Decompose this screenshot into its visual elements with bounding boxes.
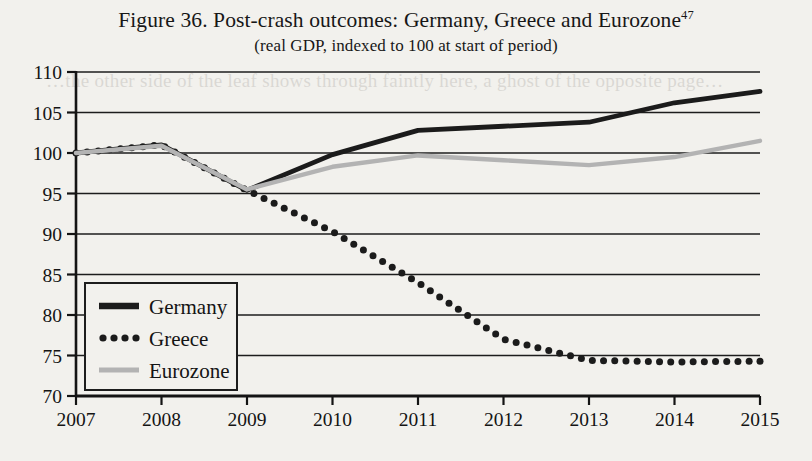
series-dot (311, 219, 318, 226)
series-dot (567, 352, 574, 359)
series-dot (250, 190, 257, 197)
series-dot (464, 312, 471, 319)
series-dot (455, 306, 462, 313)
y-axis-tick-label: 100 (33, 143, 62, 164)
series-dot (589, 357, 596, 364)
series-dot (524, 342, 531, 349)
y-axis-tick-label: 80 (43, 305, 63, 326)
figure-container: Figure 36. Post-crash outcomes: Germany,… (0, 0, 812, 461)
y-axis-tick-label: 70 (43, 386, 63, 407)
series-dot (261, 195, 268, 202)
x-axis-tick-label: 2015 (741, 409, 780, 430)
series-dot (321, 224, 328, 231)
y-axis-tick-label: 110 (33, 62, 62, 83)
series-dot (360, 247, 367, 254)
series-line (76, 141, 760, 190)
series-dot (513, 339, 520, 346)
series-dot (474, 318, 481, 325)
legend-label-eurozone: Eurozone (149, 359, 229, 383)
series-dot (656, 358, 663, 365)
series-dot (398, 269, 405, 276)
series-dot (690, 358, 697, 365)
x-axis-tick-label: 2012 (484, 409, 523, 430)
y-axis-tick-labels-group: 707580859095100105110 (33, 62, 62, 407)
x-axis-tick-label: 2010 (313, 409, 352, 430)
y-axis-tick-label: 105 (33, 103, 62, 124)
series-eurozone (76, 141, 760, 190)
series-dot (746, 358, 753, 365)
series-dot (622, 358, 629, 365)
series-dot (291, 210, 298, 217)
chart-plot-area: 707580859095100105110 200720082009201020… (0, 0, 812, 461)
x-axis-tick-label: 2009 (228, 409, 267, 430)
legend-swatch-greece (110, 334, 117, 341)
legend-swatch-greece (132, 334, 139, 341)
y-axis-tick-label: 95 (43, 184, 63, 205)
series-dot (534, 344, 541, 351)
series-dot (408, 275, 415, 282)
y-axis-tick-label: 90 (43, 224, 63, 245)
series-dot (734, 358, 741, 365)
legend-swatch-greece (121, 334, 128, 341)
x-axis-tick-label: 2011 (399, 409, 437, 430)
series-dot (427, 287, 434, 294)
series-dot (370, 252, 377, 259)
series-dot (502, 336, 509, 343)
series-dot (446, 300, 453, 307)
series-dot (483, 324, 490, 331)
series-dot (723, 358, 730, 365)
series-dot (701, 358, 708, 365)
series-dot (492, 331, 499, 338)
series-dot (678, 358, 685, 365)
series-dot (600, 357, 607, 364)
y-axis-tick-label: 75 (43, 346, 63, 367)
legend-swatch-greece (99, 334, 106, 341)
legend-label-greece: Greece (149, 327, 208, 351)
series-dot (667, 358, 674, 365)
series-dot (379, 258, 386, 265)
series-dot (350, 241, 357, 248)
series-dot (271, 200, 278, 207)
x-axis-tick-label: 2007 (57, 409, 96, 430)
series-dot (578, 355, 585, 362)
series-dot (611, 357, 618, 364)
chart-legend: GermanyGreeceEurozone (85, 283, 237, 390)
series-dot (331, 229, 338, 236)
series-dot (418, 281, 425, 288)
x-axis-tick-labels-group: 200720082009201020112012201320142015 (57, 409, 780, 430)
series-dot (436, 293, 443, 300)
y-axis-ticks-group (67, 72, 76, 396)
series-dot (301, 214, 308, 221)
series-dot (757, 358, 764, 365)
x-axis-tick-label: 2008 (142, 409, 181, 430)
series-germany (76, 91, 760, 190)
series-dot (712, 358, 719, 365)
series-dot (389, 264, 396, 271)
x-axis-tick-label: 2014 (655, 409, 694, 430)
legend-label-germany: Germany (149, 295, 228, 319)
series-dot (341, 235, 348, 242)
series-dot (281, 205, 288, 212)
series-dot (556, 350, 563, 357)
series-line (76, 91, 760, 190)
y-axis-tick-label: 85 (43, 265, 63, 286)
x-axis-tick-label: 2013 (570, 409, 609, 430)
series-dot (545, 347, 552, 354)
series-dot (634, 358, 641, 365)
series-dot (645, 358, 652, 365)
